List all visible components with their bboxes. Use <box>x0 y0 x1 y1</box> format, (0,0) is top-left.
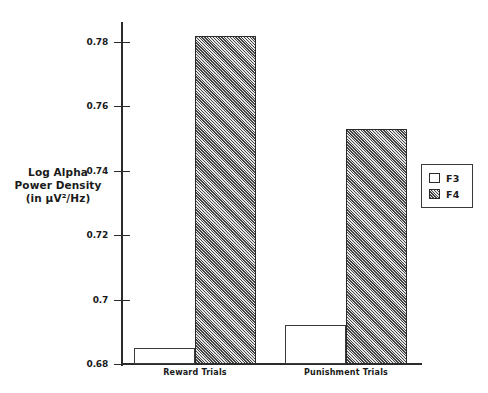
y-tick-5 <box>114 42 130 43</box>
bar-f4-punishment-trials <box>346 129 407 364</box>
y-tick-3 <box>114 171 130 172</box>
legend-swatch-f4-icon <box>429 189 440 199</box>
y-tick-label-wrap-4: 0.76 <box>56 101 108 112</box>
y-tick-label-wrap-1: 0.7 <box>56 295 108 306</box>
y-tick-label-1: 0.7 <box>56 295 108 305</box>
y-tick-label-2: 0.72 <box>56 230 108 240</box>
y-tick-0 <box>114 364 130 365</box>
y-tick-label-wrap-5: 0.78 <box>56 37 108 48</box>
x-axis-label-reward-trials: Reward Trials <box>135 368 255 377</box>
legend-swatch-f3-icon <box>429 173 440 183</box>
bar-chart-figure: 0.680.70.720.740.760.78 Reward TrialsPun… <box>0 0 488 393</box>
legend-item-f4: F4 <box>429 186 472 202</box>
x-axis-label-punishment-trials: Punishment Trials <box>286 368 406 377</box>
y-axis-title: Log Alpha Power Density (in µV²/Hz) <box>4 166 112 205</box>
y-axis-line <box>121 22 123 366</box>
y-tick-4 <box>114 106 130 107</box>
legend-label-f3: F3 <box>446 173 460 184</box>
bar-f4-reward-trials <box>195 36 256 364</box>
legend-item-f3: F3 <box>429 170 472 186</box>
y-tick-label-wrap-2: 0.72 <box>56 230 108 241</box>
legend-label-f4: F4 <box>446 189 460 200</box>
y-axis-title-line-1: Log Alpha <box>4 166 112 179</box>
y-tick-label-5: 0.78 <box>56 37 108 47</box>
y-tick-2 <box>114 235 130 236</box>
bar-f3-punishment-trials <box>285 325 346 364</box>
legend: F3 F4 <box>421 164 473 208</box>
y-tick-1 <box>114 300 130 301</box>
y-axis-title-line-3: (in µV²/Hz) <box>4 192 112 205</box>
y-tick-label-4: 0.76 <box>56 101 108 111</box>
y-tick-label-wrap-0: 0.68 <box>56 359 108 370</box>
y-axis-title-line-2: Power Density <box>4 179 112 192</box>
bar-f3-reward-trials <box>134 348 195 364</box>
y-tick-label-0: 0.68 <box>56 359 108 369</box>
